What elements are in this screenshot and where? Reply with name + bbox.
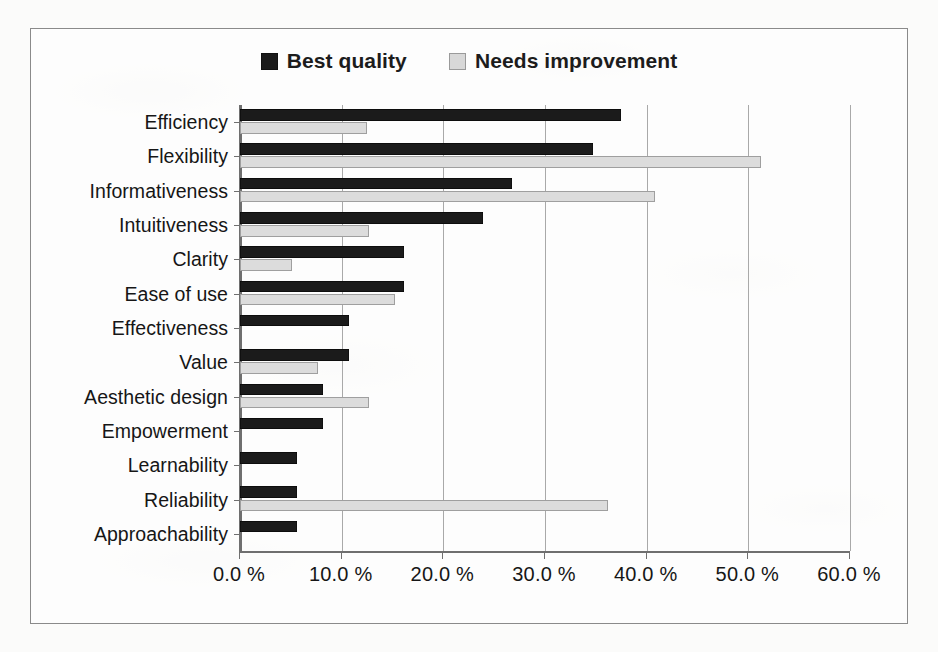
axis-tick-20 [442, 551, 443, 559]
axis-tick-50 [747, 551, 748, 559]
category-label: Approachability [94, 522, 228, 545]
scanned-page-background: Best quality Needs improvement Efficienc… [0, 0, 938, 652]
bar-best-quality [240, 178, 512, 190]
bar-needs-improvement [240, 225, 369, 237]
bar-best-quality [240, 143, 593, 155]
category-row: Flexibility [240, 139, 850, 173]
gridline-60 [850, 105, 851, 551]
legend-label-best-quality: Best quality [287, 49, 407, 73]
bar-needs-improvement [240, 122, 367, 134]
bar-needs-improvement [240, 259, 292, 271]
tick-label-50: 50.0 % [716, 563, 779, 586]
category-tick [234, 328, 240, 329]
axis-tick-60 [849, 551, 850, 559]
category-row: Informativeness [240, 174, 850, 208]
category-row: Aesthetic design [240, 379, 850, 413]
bar-needs-improvement [240, 397, 369, 409]
tick-label-30: 30.0 % [512, 563, 575, 586]
value-axis-tick-labels: 0.0 %10.0 %20.0 %30.0 %40.0 %50.0 %60.0 … [239, 563, 849, 593]
category-tick [234, 431, 240, 432]
category-label: Intuitiveness [119, 214, 228, 237]
legend-swatch-dark-square-icon [261, 53, 278, 70]
bar-best-quality [240, 521, 297, 533]
bar-needs-improvement [240, 362, 318, 374]
category-label: Effectiveness [112, 316, 228, 339]
category-row: Efficiency [240, 105, 850, 139]
category-row: Ease of use [240, 277, 850, 311]
category-row: Intuitiveness [240, 208, 850, 242]
value-axis-line [239, 551, 849, 553]
category-label: Learnability [128, 454, 228, 477]
bar-best-quality [240, 349, 349, 361]
bar-needs-improvement [240, 191, 655, 203]
category-label: Informativeness [90, 179, 228, 202]
bar-needs-improvement [240, 156, 761, 168]
bar-best-quality [240, 452, 297, 464]
bar-best-quality [240, 246, 404, 258]
axis-tick-40 [646, 551, 647, 559]
category-row: Approachability [240, 517, 850, 551]
bar-best-quality [240, 315, 349, 327]
legend-entry-best-quality: Best quality [261, 49, 407, 73]
tick-label-20: 20.0 % [411, 563, 474, 586]
bar-best-quality [240, 418, 323, 430]
bar-best-quality [240, 281, 404, 293]
chart-frame: Best quality Needs improvement Efficienc… [30, 28, 908, 624]
tick-label-40: 40.0 % [614, 563, 677, 586]
bar-needs-improvement [240, 500, 608, 512]
category-tick [234, 465, 240, 466]
axis-tick-0 [239, 551, 240, 559]
tick-label-0: 0.0 % [213, 563, 265, 586]
tick-label-60: 60.0 % [817, 563, 880, 586]
legend-label-needs-improvement: Needs improvement [475, 49, 677, 73]
category-label: Ease of use [124, 282, 228, 305]
category-row: Effectiveness [240, 311, 850, 345]
category-label: Flexibility [147, 145, 228, 168]
legend-swatch-light-square-icon [449, 53, 466, 70]
category-row: Learnability [240, 448, 850, 482]
category-label: Empowerment [102, 419, 228, 442]
bar-best-quality [240, 486, 297, 498]
axis-tick-30 [544, 551, 545, 559]
category-tick [234, 534, 240, 535]
bar-best-quality [240, 212, 483, 224]
legend-entry-needs-improvement: Needs improvement [449, 49, 677, 73]
tick-label-10: 10.0 % [309, 563, 372, 586]
category-row: Empowerment [240, 414, 850, 448]
category-label: Clarity [172, 248, 228, 271]
category-row: Value [240, 345, 850, 379]
category-label: Efficiency [144, 111, 228, 134]
chart-legend: Best quality Needs improvement [31, 49, 907, 73]
category-label: Aesthetic design [84, 385, 228, 408]
category-label: Reliability [144, 488, 228, 511]
category-label: Value [179, 351, 228, 374]
plot-area: EfficiencyFlexibilityInformativenessIntu… [239, 105, 850, 551]
category-row: Reliability [240, 482, 850, 516]
axis-tick-10 [341, 551, 342, 559]
bar-best-quality [240, 109, 621, 121]
bar-best-quality [240, 384, 323, 396]
category-row: Clarity [240, 242, 850, 276]
bar-needs-improvement [240, 294, 395, 306]
